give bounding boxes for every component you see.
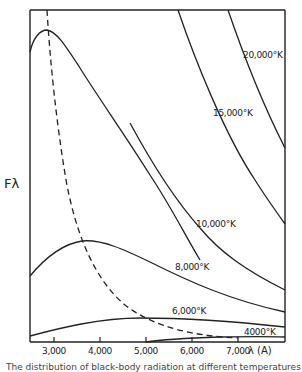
x-tick-label: 7,000 <box>226 346 250 356</box>
x-axis-label: λ (A) <box>248 345 272 356</box>
label-20000k: 20,000°K <box>243 50 283 60</box>
figure-caption: The distribution of black-body radiation… <box>6 362 301 372</box>
curve-8000k <box>30 241 285 312</box>
curve-20000k <box>228 10 285 148</box>
x-tick-label: 4,000 <box>88 346 112 356</box>
x-tick-label: 6,000 <box>180 346 204 356</box>
curve-10000k <box>200 228 285 290</box>
curve-4000k <box>146 337 285 342</box>
label-8000k: 8,000°K <box>175 262 209 272</box>
curve-hot-left <box>30 30 200 260</box>
label-6000k: 6,000°K <box>172 306 206 316</box>
curve-10000k-upper <box>130 123 200 228</box>
label-15000k: 15,000°K <box>213 108 253 118</box>
x-tick-label: 3,000 <box>42 346 66 356</box>
x-tick-label: 5,000 <box>134 346 158 356</box>
y-axis-label: Fλ <box>4 176 19 191</box>
label-4000k: 4000°K <box>244 327 276 337</box>
label-10000k: 10,000°K <box>196 219 236 229</box>
